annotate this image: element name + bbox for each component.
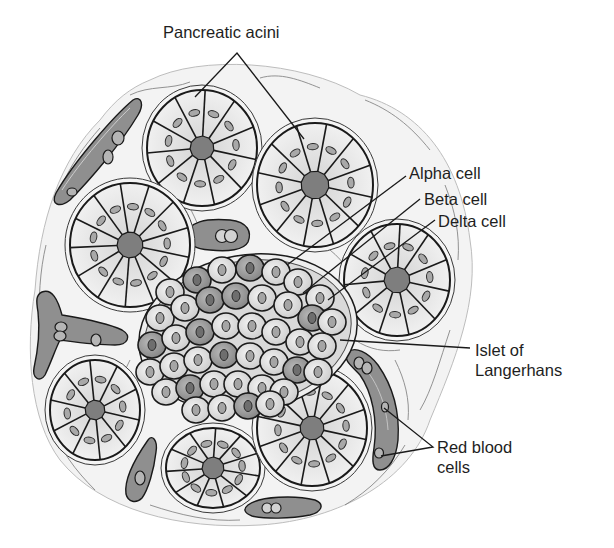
label-red-blood-cells: Red blood cells xyxy=(437,437,512,477)
label-islet-line2: Langerhans xyxy=(475,360,562,380)
label-rbc-line1: Red blood xyxy=(437,437,512,457)
label-alpha-cell: Alpha cell xyxy=(409,163,481,183)
label-delta-cell: Delta cell xyxy=(438,211,506,231)
vessel-bottom xyxy=(245,497,321,518)
label-islet-of-langerhans: Islet of Langerhans xyxy=(475,340,562,380)
label-islet-line1: Islet of xyxy=(475,340,562,360)
acinus xyxy=(252,118,378,252)
label-rbc-line2: cells xyxy=(437,457,512,477)
red-blood-cell xyxy=(375,448,384,458)
acinus xyxy=(161,423,265,513)
acinus xyxy=(45,355,145,465)
label-beta-cell: Beta cell xyxy=(424,189,487,209)
pancreas-diagram xyxy=(0,0,614,548)
vessel-middle xyxy=(188,220,249,251)
label-pancreatic-acini: Pancreatic acini xyxy=(163,22,279,42)
